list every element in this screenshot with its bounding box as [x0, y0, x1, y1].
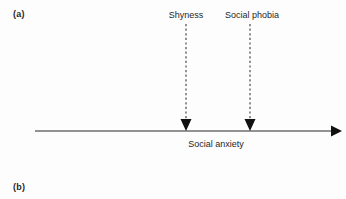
continuum-diagram [0, 0, 346, 199]
axis-arrowhead-right [331, 126, 342, 137]
marker-label-shyness: Shyness [169, 10, 204, 20]
figure-container: (a) Shyness Social phobia Social anxiety… [0, 0, 346, 199]
marker-label-social-phobia: Social phobia [225, 10, 279, 20]
panel-label-b: (b) [13, 182, 25, 192]
panel-label-a: (a) [13, 9, 25, 19]
marker-arrowhead-social-phobia [245, 119, 256, 131]
marker-arrowhead-shyness [181, 119, 192, 131]
axis-caption: Social anxiety [188, 139, 244, 149]
